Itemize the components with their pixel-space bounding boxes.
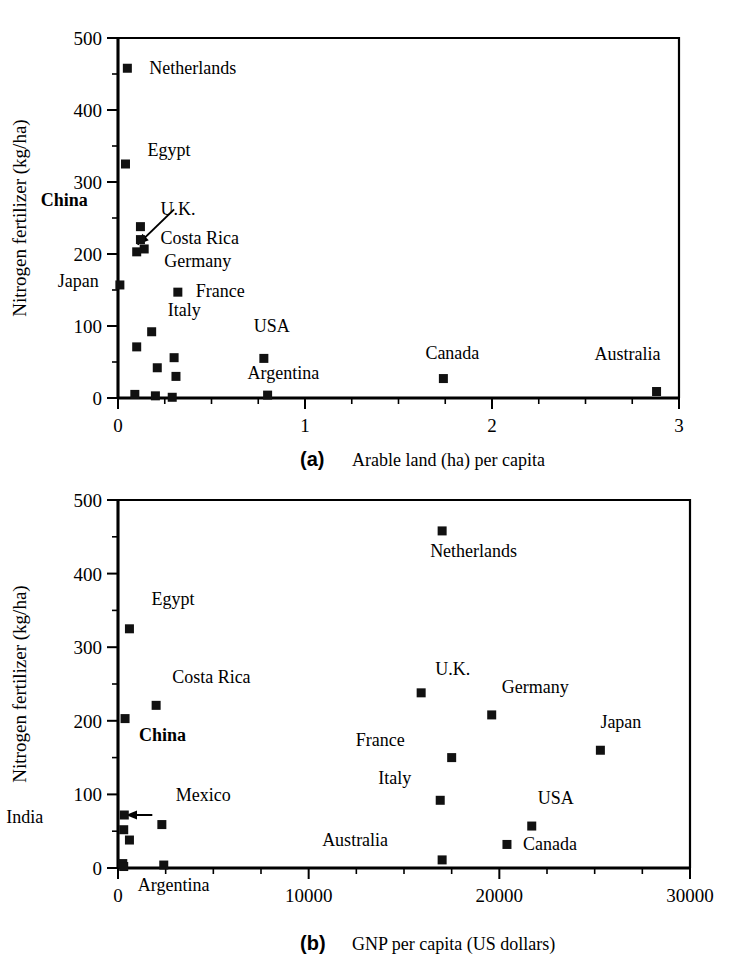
data-point-marker: [438, 526, 447, 535]
y-tick-label: 200: [74, 711, 103, 732]
x-tick-label: 10000: [285, 885, 333, 906]
data-point-label: Costa Rica: [172, 667, 251, 687]
data-point-label: Canada: [425, 343, 479, 363]
data-point-label: Egypt: [147, 140, 190, 160]
data-point-marker: [527, 822, 536, 831]
data-point-marker: [436, 796, 445, 805]
data-point-label: Netherlands: [430, 541, 517, 561]
x-axis-ticks: [118, 398, 679, 409]
data-point-label: Japan: [58, 271, 99, 291]
x-tick-label: 3: [674, 415, 684, 436]
data-point-label: Australia: [595, 344, 661, 364]
data-point-label: U.K.: [435, 659, 470, 679]
y-axis-title: Nitrogen fertilizer (kg/ha): [9, 585, 31, 782]
data-points: [118, 526, 605, 871]
y-tick-label: 500: [74, 28, 103, 49]
data-point-marker: [171, 372, 180, 381]
data-point-label: Italy: [378, 768, 411, 788]
data-point-marker: [153, 363, 162, 372]
data-point-label: Italy: [168, 300, 201, 320]
data-point-marker: [159, 861, 168, 870]
data-point-marker: [119, 862, 128, 871]
x-axis-title: Arable land (ha) per capita: [352, 450, 545, 471]
y-tick-label: 0: [93, 858, 103, 879]
data-point-marker: [652, 387, 661, 396]
data-point-marker: [147, 327, 156, 336]
annotation-arrow-india: [126, 810, 152, 819]
data-point-marker: [439, 374, 448, 383]
data-point-marker: [173, 288, 182, 297]
data-point-label: Argentina: [138, 875, 210, 895]
data-point-marker: [447, 753, 456, 762]
data-point-marker: [596, 746, 605, 755]
data-point-marker: [170, 353, 179, 362]
data-point-label: Germany: [502, 677, 569, 697]
data-point-marker: [152, 701, 161, 710]
data-point-marker: [136, 235, 145, 244]
data-point-label: China: [139, 725, 186, 745]
y-tick-label: 100: [74, 784, 103, 805]
data-point-marker: [132, 342, 141, 351]
x-tick-label: 0: [113, 885, 123, 906]
x-axis-title: GNP per capita (US dollars): [352, 934, 555, 955]
x-tick-label: 20000: [476, 885, 524, 906]
scatter-panel-a: 01002003004005000123Nitrogen fertilizer …: [0, 0, 743, 480]
y-tick-label: 400: [74, 564, 103, 585]
data-point-marker: [121, 160, 130, 169]
data-point-marker: [132, 247, 141, 256]
data-point-marker: [438, 855, 447, 864]
data-point-label: Netherlands: [149, 58, 236, 78]
data-point-marker: [151, 391, 160, 400]
data-point-marker: [120, 811, 129, 820]
data-point-marker: [263, 391, 272, 400]
scatter-panel-b: 01002003004005000100002000030000Nitrogen…: [0, 480, 743, 969]
data-point-marker: [136, 222, 145, 231]
data-point-label: Japan: [600, 712, 641, 732]
y-axis-title: Nitrogen fertilizer (kg/ha): [9, 119, 31, 316]
data-point-label: Australia: [322, 830, 388, 850]
data-point-label: Canada: [523, 834, 577, 854]
x-tick-label: 2: [487, 415, 497, 436]
data-labels: NetherlandsEgyptU.K.Costa RicaGermanyChi…: [41, 58, 661, 383]
data-point-label: India: [6, 807, 43, 827]
data-point-label: France: [356, 730, 405, 750]
panel-tag: (a): [300, 448, 324, 470]
data-point-marker: [125, 836, 134, 845]
data-point-label: Costa Rica: [160, 228, 239, 248]
y-tick-label: 0: [93, 388, 103, 409]
data-point-label: France: [196, 281, 245, 301]
data-point-marker: [502, 840, 511, 849]
plot-a-svg: 01002003004005000123Nitrogen fertilizer …: [0, 0, 743, 480]
data-point-marker: [123, 64, 132, 73]
data-point-marker: [125, 624, 134, 633]
data-point-label: Germany: [164, 251, 231, 271]
y-tick-label: 100: [74, 316, 103, 337]
panel-tag: (b): [300, 932, 326, 954]
data-point-marker: [487, 710, 496, 719]
data-point-marker: [168, 393, 177, 402]
y-tick-label: 300: [74, 637, 103, 658]
data-point-marker: [119, 825, 128, 834]
data-point-marker: [121, 714, 130, 723]
x-tick-label: 30000: [666, 885, 714, 906]
x-tick-label: 1: [300, 415, 310, 436]
data-point-label: China: [41, 190, 88, 210]
y-axis-ticks: [107, 500, 118, 868]
data-point-marker: [259, 354, 268, 363]
figure-container: 01002003004005000123Nitrogen fertilizer …: [0, 0, 743, 969]
data-point-marker: [130, 390, 139, 399]
data-point-label: U.K.: [160, 199, 195, 219]
data-point-label: USA: [254, 316, 290, 336]
data-point-label: Egypt: [151, 589, 194, 609]
y-tick-label: 200: [74, 244, 103, 265]
data-point-label: USA: [538, 788, 574, 808]
y-axis-ticks: [107, 38, 118, 398]
y-tick-label: 400: [74, 100, 103, 121]
data-point-label: Argentina: [248, 363, 320, 383]
x-tick-label: 0: [113, 415, 123, 436]
data-point-label: Mexico: [176, 785, 231, 805]
plot-b-svg: 01002003004005000100002000030000Nitrogen…: [0, 480, 743, 969]
y-tick-label: 500: [74, 490, 103, 511]
data-point-marker: [417, 688, 426, 697]
data-point-marker: [115, 280, 124, 289]
